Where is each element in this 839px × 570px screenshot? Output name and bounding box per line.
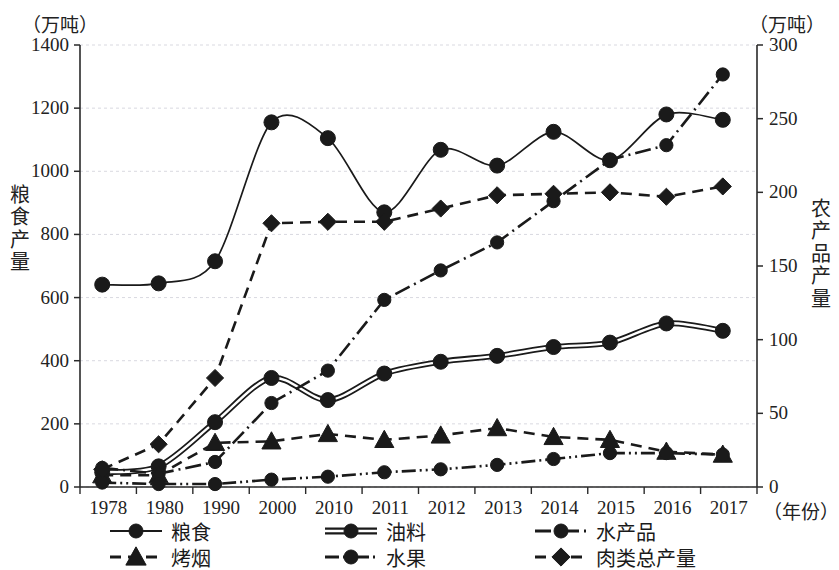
data-point: [659, 107, 674, 122]
data-point: [603, 447, 616, 460]
data-point: [434, 264, 447, 277]
left-axis-title: 粮 食 产 量: [8, 184, 32, 274]
y-axis-tick-label: 1000: [31, 160, 69, 182]
data-point: [658, 188, 675, 205]
series-粮食: [95, 107, 731, 292]
y2-axis-tick-label: 250: [769, 108, 798, 130]
y2-axis-tick-label: 300: [769, 34, 798, 56]
legend-item-油料[interactable]: 油料: [323, 517, 533, 546]
data-point: [265, 473, 278, 486]
data-point: [546, 340, 561, 355]
data-point: [151, 276, 166, 291]
data-point: [264, 115, 279, 130]
data-point: [491, 236, 504, 249]
series-水产品: [96, 68, 730, 480]
data-point: [659, 316, 674, 331]
legend-label: 烤烟: [171, 543, 211, 570]
data-point: [318, 424, 337, 441]
legend-swatch-circle-icon: [323, 546, 379, 568]
legend-label: 水果: [386, 543, 426, 570]
data-point: [319, 213, 336, 230]
legend-item-粮食[interactable]: 粮食: [108, 517, 323, 546]
data-point: [263, 215, 280, 232]
series-肉类总产量: [94, 178, 732, 478]
series-水果: [96, 447, 730, 491]
data-point: [547, 452, 560, 465]
y-axis-tick-label: 0: [60, 476, 70, 498]
series-line: [102, 453, 723, 484]
y-axis-tick-label: 1200: [31, 97, 69, 119]
data-point: [660, 447, 673, 460]
data-point: [715, 323, 730, 338]
legend-item-水产品[interactable]: 水产品: [533, 517, 763, 546]
legend-swatch-circle-icon: [533, 520, 589, 542]
right-axis-title: 农 产 品 产 量: [809, 198, 833, 310]
data-point: [716, 448, 729, 461]
data-point: [716, 68, 729, 81]
data-point: [601, 184, 618, 201]
legend-item-烤烟[interactable]: 烤烟: [108, 543, 323, 570]
data-point: [546, 124, 561, 139]
y-axis-tick-label: 1400: [31, 34, 69, 56]
legend-label: 粮食: [171, 517, 211, 546]
y-axis-tick-label: 400: [41, 350, 70, 372]
series-油料: [95, 316, 731, 480]
data-point: [714, 178, 731, 195]
legend-swatch-circle-icon: [323, 520, 379, 542]
legend-swatch-circle-icon: [108, 520, 164, 542]
left-axis-unit-label: （万吨）: [22, 10, 98, 37]
data-point: [208, 455, 221, 468]
chart-container: （万吨） （万吨） 粮 食 产 量 农 产 品 产 量 （年份） 0200400…: [0, 0, 839, 570]
data-point: [660, 139, 673, 152]
series-line: [102, 113, 723, 286]
legend-label: 水产品: [596, 517, 656, 546]
data-point: [488, 418, 507, 435]
legend-item-肉类总产量[interactable]: 肉类总产量: [533, 543, 763, 570]
data-point: [320, 131, 335, 146]
chart-legend: 粮食油料水产品烤烟水果肉类总产量: [108, 518, 808, 570]
data-point: [603, 153, 616, 166]
data-point: [489, 187, 506, 204]
data-point: [321, 364, 334, 377]
y2-axis-tick-label: 200: [769, 181, 798, 203]
data-point: [433, 142, 448, 157]
data-point: [208, 254, 223, 269]
data-point: [206, 369, 223, 386]
right-axis-unit-label: （万吨）: [749, 10, 825, 37]
data-point: [208, 415, 223, 430]
data-point: [95, 277, 110, 292]
data-point: [490, 158, 505, 173]
legend-swatch-diamond-icon: [533, 546, 589, 568]
data-point: [378, 466, 391, 479]
legend-label: 肉类总产量: [596, 543, 696, 570]
series-line: [102, 186, 723, 469]
data-point: [264, 370, 279, 385]
plot-area: [0, 0, 839, 570]
data-point: [321, 470, 334, 483]
data-point: [715, 112, 730, 127]
y2-axis-tick-label: 150: [769, 255, 798, 277]
data-point: [378, 293, 391, 306]
data-point: [320, 393, 335, 408]
series-烤烟: [93, 418, 733, 482]
data-point: [150, 436, 167, 453]
y-axis-tick-label: 600: [41, 287, 70, 309]
series-line-core: [102, 323, 723, 472]
data-point: [265, 396, 278, 409]
y2-axis-tick-label: 100: [769, 329, 798, 351]
data-point: [602, 335, 617, 350]
data-point: [490, 348, 505, 363]
series-line: [102, 74, 723, 473]
series-line: [102, 323, 723, 472]
data-point: [433, 354, 448, 369]
y2-axis-tick-label: 0: [769, 476, 779, 498]
legend-label: 油料: [386, 517, 426, 546]
data-point: [432, 200, 449, 217]
y-axis-tick-label: 200: [41, 413, 70, 435]
data-point: [377, 366, 392, 381]
data-point: [152, 477, 165, 490]
y2-axis-tick-label: 50: [769, 402, 788, 424]
data-point: [208, 477, 221, 490]
data-point: [434, 463, 447, 476]
legend-item-水果[interactable]: 水果: [323, 543, 533, 570]
